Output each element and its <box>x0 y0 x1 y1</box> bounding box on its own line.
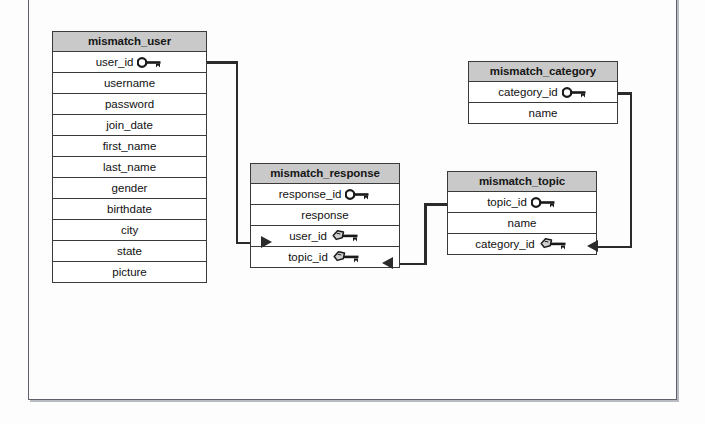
field-label: topic_id <box>288 247 328 267</box>
field-row[interactable]: birthdate <box>53 199 206 220</box>
table-header-mismatch-category: mismatch_category <box>469 62 617 82</box>
field-row[interactable]: state <box>53 241 206 262</box>
field-label: gender <box>112 178 148 198</box>
field-row[interactable]: first_name <box>53 136 206 157</box>
foreign-key-icon <box>332 250 362 264</box>
field-label: user_id <box>289 226 327 246</box>
primary-key-icon <box>531 195 557 209</box>
foreign-key-icon <box>539 237 569 251</box>
field-label: category_id <box>498 82 557 102</box>
field-label: response <box>301 205 348 225</box>
connector-category-topic-arrowhead <box>587 240 598 252</box>
table-mismatch-topic[interactable]: mismatch_topic topic_id name category_id <box>447 171 597 255</box>
table-mismatch-category[interactable]: mismatch_category category_id name <box>468 61 618 124</box>
field-row[interactable]: picture <box>53 262 206 282</box>
connector-category-topic-segment-2 <box>630 92 633 248</box>
connector-user-response-arrowhead <box>261 236 272 248</box>
field-label: city <box>121 220 138 240</box>
field-row[interactable]: category_id <box>448 234 596 254</box>
field-label: username <box>104 73 155 93</box>
connector-user-response-segment-2 <box>236 61 239 244</box>
field-row[interactable]: join_date <box>53 115 206 136</box>
primary-key-icon <box>137 55 163 69</box>
field-row[interactable]: user_id <box>251 226 399 247</box>
field-label: response_id <box>279 184 342 204</box>
field-label: last_name <box>103 157 156 177</box>
table-mismatch-user[interactable]: mismatch_user user_id username password … <box>52 31 207 283</box>
field-label: state <box>117 241 142 261</box>
field-label: name <box>529 103 558 123</box>
field-row[interactable]: name <box>448 213 596 234</box>
field-label: birthdate <box>107 199 152 219</box>
field-row[interactable]: username <box>53 73 206 94</box>
field-label: picture <box>112 262 147 282</box>
primary-key-icon <box>562 85 588 99</box>
connector-category-topic-segment-3 <box>598 246 632 249</box>
field-row[interactable]: response <box>251 205 399 226</box>
field-label: user_id <box>96 52 134 72</box>
field-label: first_name <box>103 136 157 156</box>
field-label: join_date <box>106 115 153 135</box>
field-row[interactable]: last_name <box>53 157 206 178</box>
field-row[interactable]: topic_id <box>251 247 399 267</box>
field-row[interactable]: name <box>469 103 617 123</box>
field-row[interactable]: gender <box>53 178 206 199</box>
table-header-mismatch-topic: mismatch_topic <box>448 172 596 192</box>
field-label: category_id <box>475 234 534 254</box>
field-label: topic_id <box>487 192 527 212</box>
field-label: name <box>508 213 537 233</box>
connector-topic-response-segment-2 <box>424 203 427 265</box>
field-row[interactable]: category_id <box>469 82 617 103</box>
field-row[interactable]: user_id <box>53 52 206 73</box>
erd-canvas: mismatch_user user_id username password … <box>0 0 705 424</box>
primary-key-icon <box>345 187 371 201</box>
field-row[interactable]: password <box>53 94 206 115</box>
field-row[interactable]: topic_id <box>448 192 596 213</box>
table-header-mismatch-user: mismatch_user <box>53 32 206 52</box>
field-label: password <box>105 94 154 114</box>
field-row[interactable]: city <box>53 220 206 241</box>
connector-user-response-segment-1 <box>206 61 238 64</box>
table-mismatch-response[interactable]: mismatch_response response_id response u… <box>250 163 400 268</box>
connector-topic-response-arrowhead <box>382 257 393 269</box>
field-row[interactable]: response_id <box>251 184 399 205</box>
table-header-mismatch-response: mismatch_response <box>251 164 399 184</box>
foreign-key-icon <box>331 229 361 243</box>
